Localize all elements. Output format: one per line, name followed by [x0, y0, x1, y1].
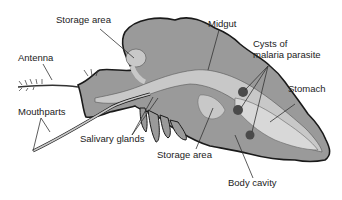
label-cysts-line1: Cysts of: [253, 38, 287, 49]
label-mouthparts: Mouthparts: [18, 106, 66, 117]
label-antenna: Antenna: [18, 52, 53, 63]
antenna: [18, 85, 78, 87]
storage-area-top: [126, 49, 146, 67]
label-salivary-glands: Salivary glands: [80, 133, 144, 144]
mosquito-diagram: [0, 0, 342, 200]
cyst: [246, 131, 255, 140]
label-midgut: Midgut: [208, 18, 237, 29]
label-storage-area-bottom: Storage area: [157, 149, 212, 160]
label-storage-area-top: Storage area: [56, 14, 111, 25]
leg: [140, 108, 147, 132]
label-stomach: Stomach: [288, 83, 326, 94]
label-cysts-line2: malaria parasite: [253, 49, 321, 60]
label-body-cavity: Body cavity: [228, 177, 277, 188]
leg: [148, 110, 159, 142]
